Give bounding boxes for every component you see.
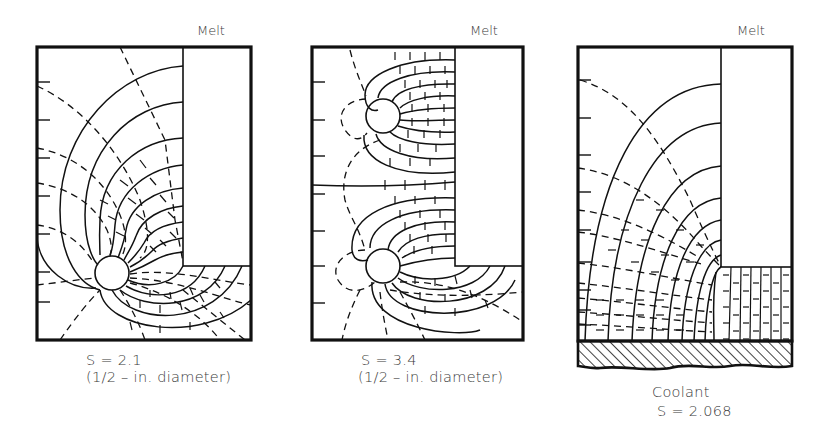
melt-block xyxy=(721,47,792,267)
pipe-diameter-label: (1/2 – in. diameter) xyxy=(86,369,231,385)
panel-3: Melt xyxy=(578,23,792,419)
flux-lines xyxy=(578,80,789,341)
lower-pipe-cross-section xyxy=(366,249,400,283)
panel-frame xyxy=(312,47,523,340)
panel-1: Melt xyxy=(37,23,251,385)
shape-factor-label: S = 2.1 xyxy=(86,352,142,368)
pipe-diameter-label: (1/2 – in. diameter) xyxy=(358,369,503,385)
melt-block xyxy=(183,47,251,266)
melt-label: Melt xyxy=(737,23,765,38)
panel-2: Melt xyxy=(312,23,523,385)
flux-lines xyxy=(312,50,523,340)
left-edge-ticks xyxy=(312,82,325,303)
melt-block xyxy=(455,47,523,266)
pipe-cross-section xyxy=(95,256,129,290)
shape-factor-label: S = 2.068 xyxy=(657,403,732,419)
flux-plot-figure: Melt xyxy=(0,0,823,436)
shape-factor-label: S = 3.4 xyxy=(361,352,417,368)
coolant-wall xyxy=(578,341,792,369)
melt-label: Melt xyxy=(470,23,498,38)
flux-lines xyxy=(37,47,251,340)
melt-label: Melt xyxy=(197,23,225,38)
coolant-label: Coolant xyxy=(652,384,710,400)
upper-pipe-cross-section xyxy=(366,99,400,133)
left-edge-ticks xyxy=(37,82,50,302)
